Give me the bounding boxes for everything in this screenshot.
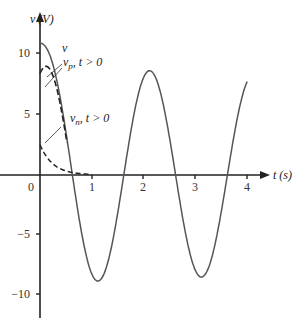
x-tick-1: 1 (89, 180, 95, 194)
x-tick-4: 4 (244, 180, 250, 194)
y-tick-5: 5 (24, 107, 30, 121)
y-tick-neg5: −5 (17, 227, 30, 241)
response-chart: 10 5 −5 −10 0 1 2 3 4 v (V) t (s) v vp, … (0, 0, 301, 332)
x-tick-3: 3 (192, 180, 198, 194)
series-vn-line (40, 145, 92, 175)
y-axis-label: v (V) (30, 12, 54, 26)
y-tick-10: 10 (18, 46, 30, 60)
annotation-vn: vn, t > 0 (70, 111, 109, 127)
annotation-vp: vp, t > 0 (63, 55, 102, 71)
x-tick-0: 0 (28, 180, 34, 194)
series-v-line (40, 43, 247, 281)
y-tick-neg10: −10 (11, 287, 30, 301)
x-tick-2: 2 (140, 180, 146, 194)
annotation-v: v (62, 41, 68, 55)
x-axis-label: t (s) (273, 168, 292, 182)
x-axis-arrow-icon (260, 171, 270, 179)
